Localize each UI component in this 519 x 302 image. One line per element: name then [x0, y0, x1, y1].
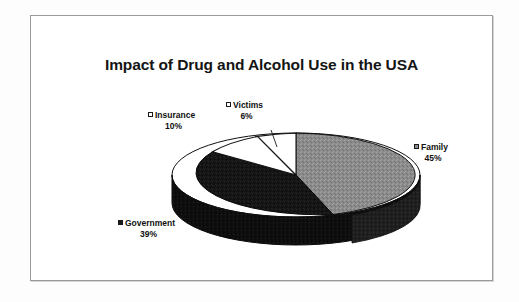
pie-label-victims: Victims 6% [226, 100, 263, 122]
chart-title: Impact of Drug and Alcohol Use in the US… [31, 56, 492, 74]
pie-label-family-percent: 45% [414, 153, 448, 164]
pie-label-insurance-percent: 10% [148, 121, 195, 132]
pie-label-victims-percent: 6% [226, 111, 263, 122]
pie-label-family: Family 45% [414, 142, 448, 164]
pie-label-victims-text: Victims [233, 100, 263, 111]
pie-label-government: Government 39% [118, 218, 175, 240]
pie-label-insurance: Insurance 10% [148, 110, 195, 132]
legend-swatch-family-icon [414, 144, 419, 149]
legend-swatch-insurance-icon [148, 112, 153, 117]
pie-label-family-text: Family [421, 142, 448, 153]
pie-label-government-percent: 39% [118, 229, 175, 240]
pie-label-government-text: Government [125, 218, 175, 229]
legend-swatch-victims-icon [226, 102, 231, 107]
pie-label-insurance-text: Insurance [155, 110, 195, 121]
legend-swatch-government-icon [118, 220, 123, 225]
